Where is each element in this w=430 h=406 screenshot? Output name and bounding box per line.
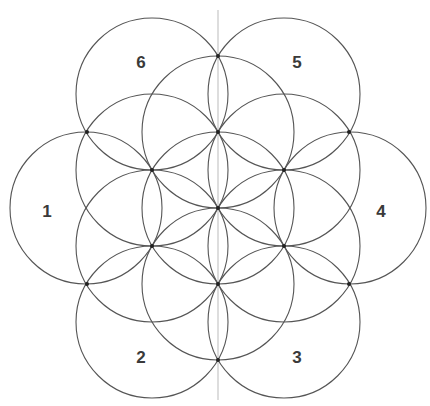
intersection-dot — [85, 130, 89, 134]
intersection-dot — [216, 54, 220, 58]
intersection-dot — [216, 130, 220, 134]
flower-of-life-diagram: 1 2 3 4 5 6 — [0, 0, 430, 406]
circle-geometry — [0, 0, 430, 406]
circle-label-1: 1 — [42, 203, 51, 220]
circle-label-3: 3 — [292, 349, 301, 366]
intersection-dot — [282, 168, 286, 172]
intersection-dot — [216, 358, 220, 362]
intersection-dot — [347, 282, 351, 286]
circle-label-6: 6 — [136, 54, 145, 71]
intersection-dot — [216, 206, 220, 210]
intersection-dot — [347, 130, 351, 134]
intersection-dot — [216, 282, 220, 286]
circle-label-5: 5 — [292, 54, 301, 71]
circle-label-2: 2 — [136, 349, 145, 366]
circle-label-4: 4 — [376, 203, 385, 220]
intersection-dot — [282, 244, 286, 248]
intersection-dot — [150, 168, 154, 172]
intersection-dot — [85, 282, 89, 286]
intersection-dot — [150, 244, 154, 248]
